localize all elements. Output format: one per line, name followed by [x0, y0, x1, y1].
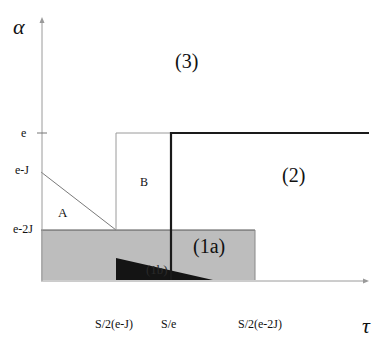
region-label-A: A [58, 206, 67, 219]
region-label-2: (2) [282, 165, 305, 185]
y-tick-label-e-2J: e-2J [13, 223, 33, 235]
x-axis-label: τ [362, 315, 370, 337]
y-axis-label: α [13, 16, 25, 38]
region-label-B: B [140, 176, 148, 188]
x-axis-arrow-icon [363, 279, 369, 284]
y-tick-label-e-J: e-J [15, 164, 29, 176]
region-label-1b: (1b) [146, 263, 168, 276]
x-tick-label-S-2(e-2J): S/2(e-2J) [238, 318, 282, 330]
y-tick-label-e: e [21, 127, 26, 139]
diagonal-boundary-A [41, 172, 116, 230]
region-label-3: (3) [175, 51, 198, 71]
x-tick-label-S-2(e-J): S/2(e-J) [95, 318, 133, 330]
region-label-1a: (1a) [193, 236, 225, 256]
y-axis-arrow-icon [40, 17, 45, 23]
x-tick-label-S-e: S/e [161, 318, 176, 330]
